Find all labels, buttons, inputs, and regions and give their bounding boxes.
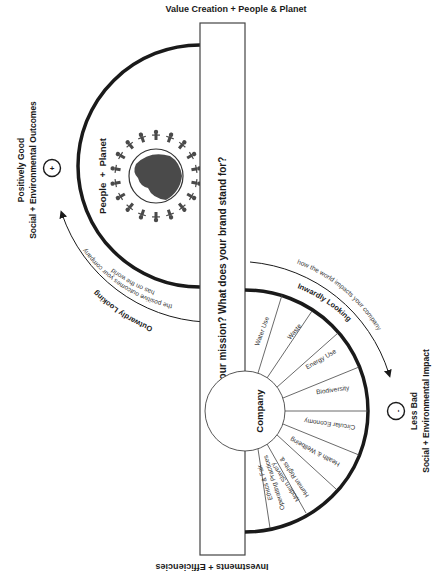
segment-health-wellbeing: Health & Wellbeing: [288, 435, 341, 468]
segment-energy-use: Energy Use: [304, 347, 338, 371]
social-env-outcomes-label: Social + Environmental Outcomes: [28, 101, 38, 239]
less-bad-label: Less Bad: [409, 392, 419, 430]
segment-circular-economy: Circular Economy: [303, 416, 356, 431]
plus-symbol: +: [50, 164, 55, 173]
company-hub: [205, 371, 285, 451]
plus-circle-icon: +: [44, 160, 61, 177]
sustainability-diagram: Value Creation + People & Planet: [0, 0, 442, 572]
segment-biodiversity: Biodiversity: [316, 384, 351, 397]
bottom-title: Investments + Efficiencies: [156, 562, 269, 572]
company-label: Company: [254, 389, 265, 433]
social-env-impact-label: Social + Environmental Impact: [421, 349, 431, 473]
positively-good-label: Positively Good: [16, 138, 26, 202]
globe-people-icon: [110, 130, 202, 222]
people-planet-label: People + Planet: [97, 137, 108, 214]
minus-circle-icon: -: [388, 403, 405, 420]
top-title: Value Creation + People & Planet: [166, 4, 307, 14]
minus-symbol: -: [393, 409, 402, 412]
